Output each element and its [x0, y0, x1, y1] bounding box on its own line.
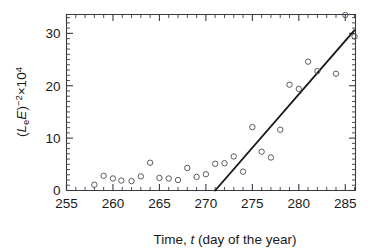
- y-axis-title: (LeE)−2×104: [13, 67, 32, 137]
- data-point: [203, 172, 208, 177]
- data-point: [157, 175, 162, 180]
- data-point: [212, 161, 217, 166]
- data-point: [185, 165, 190, 170]
- y-axis-tick-labels: 0102030: [45, 26, 60, 198]
- x-tick-label: 265: [148, 196, 171, 211]
- y-tick-label: 20: [45, 79, 60, 94]
- data-point: [166, 176, 171, 181]
- data-point: [250, 124, 255, 129]
- x-axis-major-ticks: [67, 184, 346, 191]
- data-point: [101, 173, 106, 178]
- data-point: [119, 178, 124, 183]
- y-tick-label: 10: [45, 131, 60, 146]
- figure-container: 255260265270275280285 0102030 Time, t (d…: [0, 0, 374, 251]
- right-axis-ticks: [349, 18, 356, 191]
- data-point: [296, 86, 301, 91]
- data-point: [231, 154, 236, 159]
- data-point: [287, 82, 292, 87]
- data-point: [222, 161, 227, 166]
- data-point: [259, 149, 264, 154]
- x-tick-label: 275: [241, 196, 264, 211]
- x-tick-label: 270: [195, 196, 218, 211]
- data-point: [240, 169, 245, 174]
- data-point: [194, 174, 199, 179]
- data-point: [305, 59, 310, 64]
- y-tick-label: 30: [45, 26, 60, 41]
- data-point: [147, 160, 152, 165]
- x-tick-label: 285: [334, 196, 357, 211]
- data-point-series: [92, 12, 358, 187]
- x-tick-label: 260: [102, 196, 125, 211]
- data-point: [333, 71, 338, 76]
- top-axis-ticks: [67, 15, 355, 22]
- plot-frame: [67, 15, 356, 191]
- fit-line-group: [215, 30, 354, 190]
- data-point: [138, 174, 143, 179]
- y-tick-label: 0: [53, 183, 61, 198]
- data-point: [92, 182, 97, 187]
- regression-line: [215, 30, 354, 190]
- data-point: [268, 155, 273, 160]
- data-point: [129, 178, 134, 183]
- data-point: [175, 177, 180, 182]
- x-tick-label: 280: [288, 196, 311, 211]
- data-point: [278, 127, 283, 132]
- scatter-plot: 255260265270275280285 0102030 Time, t (d…: [0, 0, 374, 251]
- data-point: [110, 176, 115, 181]
- x-axis-title: Time, t (day of the year): [154, 232, 297, 247]
- x-axis-tick-labels: 255260265270275280285: [55, 196, 356, 211]
